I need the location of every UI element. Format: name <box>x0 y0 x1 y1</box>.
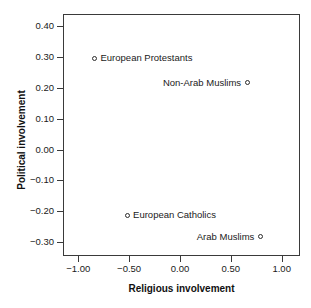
y-axis-tick-label: −0.30 <box>0 237 54 247</box>
y-axis-tick-label: 0.30 <box>0 52 54 62</box>
scatter-plot-figure: Political involvement 0.400.300.200.100.… <box>0 0 311 308</box>
x-axis-title: Religious involvement <box>63 284 300 294</box>
y-axis-tick-label: −0.10 <box>0 176 54 186</box>
data-point-label: Arab Muslims <box>197 232 255 242</box>
data-point[interactable] <box>92 56 97 61</box>
x-axis-tick-label: 1.00 <box>252 264 311 274</box>
x-axis-tick <box>282 256 283 262</box>
x-axis-tick <box>180 256 181 262</box>
x-axis-tick <box>129 256 130 262</box>
y-axis-tick-label: 0.20 <box>0 83 54 93</box>
y-axis-tick-label: 0.10 <box>0 114 54 124</box>
data-point-label: European Catholics <box>133 211 216 221</box>
y-axis-tick-label: 0.40 <box>0 22 54 32</box>
data-point[interactable] <box>125 213 130 218</box>
x-axis-tick <box>78 256 79 262</box>
data-points-layer: European ProtestantsNon-Arab MuslimsEuro… <box>64 15 299 255</box>
plot-area: European ProtestantsNon-Arab MuslimsEuro… <box>63 14 300 256</box>
data-point-label: Non-Arab Muslims <box>163 78 241 88</box>
y-axis-tick-label: 0.00 <box>0 145 54 155</box>
y-axis-tick-label: −0.20 <box>0 207 54 217</box>
data-point[interactable] <box>245 80 250 85</box>
data-point-label: European Protestants <box>101 53 193 63</box>
data-point[interactable] <box>258 234 263 239</box>
x-axis-tick <box>231 256 232 262</box>
